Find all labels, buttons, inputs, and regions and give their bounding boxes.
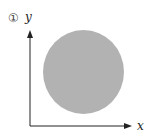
x-axis-label: x: [137, 119, 144, 133]
diagram: ① y x: [0, 0, 151, 140]
y-axis-label: y: [24, 10, 32, 24]
x-axis: [30, 123, 132, 129]
circle-shape: [43, 30, 124, 114]
y-axis-arrow-icon: [27, 30, 33, 38]
figure-number: ①: [8, 11, 19, 25]
x-axis-arrow-icon: [124, 123, 132, 129]
y-axis: [27, 30, 33, 126]
